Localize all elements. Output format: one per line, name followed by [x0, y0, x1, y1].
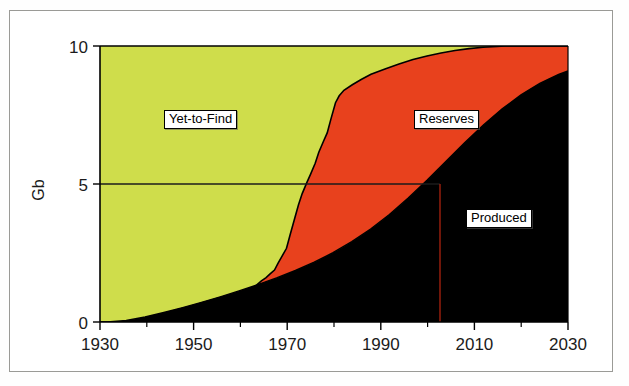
- y-tick-label-10: 10: [69, 38, 88, 57]
- plot-areas: [100, 46, 568, 322]
- y-axis-ticks: 0 5 10: [69, 38, 100, 333]
- y-axis-title: Gb: [30, 179, 47, 200]
- y-tick-label-0: 0: [79, 314, 88, 333]
- x-tick-label-2030: 2030: [549, 335, 587, 354]
- x-tick-label-2010: 2010: [455, 335, 493, 354]
- x-axis-ticks: 1930 1950 1970 1990 2010 2030: [81, 322, 587, 354]
- oil-depletion-area-chart: 0 5 10 1930 1950 1970 1990: [0, 0, 629, 386]
- x-tick-label-1990: 1990: [362, 335, 400, 354]
- chart-canvas: 0 5 10 1930 1950 1970 1990: [0, 0, 629, 386]
- y-tick-label-5: 5: [79, 176, 88, 195]
- series-label-yet-to-find: Yet-to-Find: [164, 110, 237, 129]
- x-tick-label-1930: 1930: [81, 335, 119, 354]
- x-tick-label-1950: 1950: [175, 335, 213, 354]
- series-label-produced: Produced: [466, 209, 532, 228]
- figure-page: 0 5 10 1930 1950 1970 1990: [0, 0, 629, 386]
- series-label-reserves: Reserves: [414, 110, 479, 129]
- x-tick-label-1970: 1970: [268, 335, 306, 354]
